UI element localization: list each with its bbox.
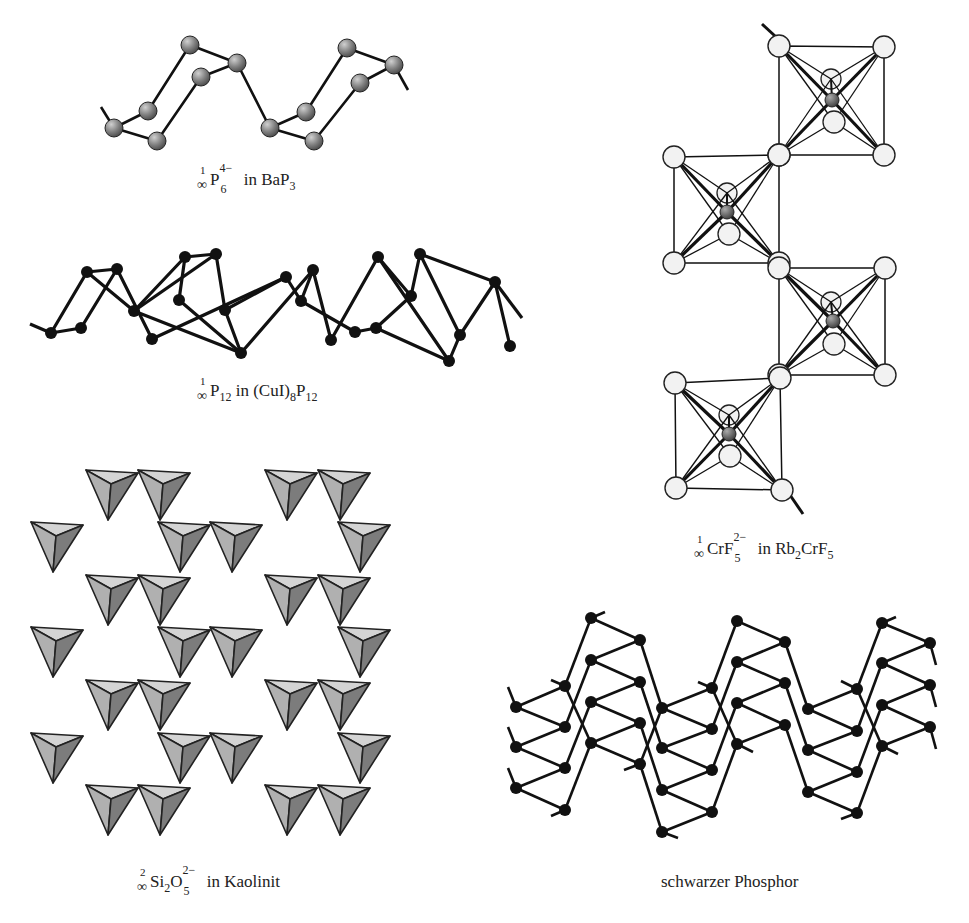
phosphorus-atom bbox=[139, 102, 157, 120]
phosphorus-atom bbox=[338, 39, 356, 57]
phosphorus-atom bbox=[228, 54, 246, 72]
dimensionality-label: 1∞ bbox=[197, 171, 210, 189]
phosphorus-atom bbox=[210, 248, 222, 260]
phosphorus-atom bbox=[656, 702, 668, 714]
phosphorus-atom bbox=[779, 677, 791, 689]
phosphorus-atom bbox=[414, 248, 426, 260]
phosphorus-atom bbox=[219, 304, 231, 316]
phosphorus-atom bbox=[585, 654, 597, 666]
fluorine-atom bbox=[768, 35, 790, 57]
formula-species: CrF bbox=[707, 539, 733, 558]
phosphorus-atom bbox=[634, 676, 646, 688]
phosphorus-atom bbox=[876, 699, 888, 711]
p12-chain-structure bbox=[30, 248, 522, 367]
phosphorus-atom bbox=[148, 132, 166, 150]
phosphorus-atom bbox=[851, 766, 863, 778]
phosphorus-atom bbox=[634, 758, 646, 770]
formula-subscript: 5 bbox=[828, 548, 834, 562]
crf5-octahedra-chain bbox=[663, 24, 896, 514]
caption-crf5-rb2crf5: 1∞CrF2−5 in Rb2CrF5 bbox=[694, 540, 834, 558]
formula-subscript: 12 bbox=[305, 390, 317, 404]
phosphorus-atom bbox=[851, 725, 863, 737]
charge-index: 2−5 bbox=[733, 540, 753, 558]
phosphorus-atom bbox=[146, 333, 158, 345]
phosphorus-atom bbox=[585, 737, 597, 749]
phosphorus-atom bbox=[731, 738, 743, 750]
caption-black-phosphorus: schwarzer Phosphor bbox=[661, 873, 798, 890]
fluorine-atom bbox=[768, 257, 790, 279]
phosphorus-atom bbox=[656, 826, 668, 838]
phosphorus-atom bbox=[876, 657, 888, 669]
phosphorus-atom bbox=[802, 744, 814, 756]
formula-species: Si bbox=[150, 872, 164, 891]
phosphorus-atom bbox=[510, 741, 522, 753]
phosphorus-atom bbox=[634, 717, 646, 729]
caption-text: in Rb bbox=[753, 539, 795, 558]
phosphorus-atom bbox=[656, 742, 668, 754]
phosphorus-atom bbox=[179, 251, 191, 263]
fluorine-atom bbox=[769, 367, 791, 389]
chromium-atom bbox=[722, 427, 736, 441]
phosphorus-atom bbox=[656, 784, 668, 796]
si2o5-tetrahedra-layer bbox=[31, 470, 390, 835]
fluorine-atom bbox=[874, 364, 896, 386]
phosphorus-atom bbox=[510, 782, 522, 794]
caption-text: in BaP bbox=[239, 170, 289, 189]
fluorine-atom bbox=[874, 257, 896, 279]
phosphorus-atom bbox=[128, 305, 140, 317]
phosphorus-atom bbox=[280, 271, 292, 283]
phosphorus-atom bbox=[181, 36, 199, 54]
fluorine-atom bbox=[873, 36, 895, 58]
phosphorus-atom bbox=[45, 327, 57, 339]
phosphorus-atom bbox=[351, 74, 369, 92]
caption-p6-bap3: 1∞P4−6 in BaP3 bbox=[197, 171, 296, 189]
fluorine-atom bbox=[663, 252, 685, 274]
phosphorus-atom bbox=[173, 294, 185, 306]
phosphorus-atom bbox=[706, 764, 718, 776]
phosphorus-atom bbox=[192, 68, 210, 86]
dimensionality-label: 1∞ bbox=[694, 540, 707, 558]
phosphorus-atom bbox=[924, 721, 936, 733]
phosphorus-atom bbox=[559, 680, 571, 692]
phosphorus-atom bbox=[559, 804, 571, 816]
caption-si2o5-kaolinit: 2∞Si2O2−5 in Kaolinit bbox=[137, 873, 280, 891]
phosphorus-atom bbox=[876, 740, 888, 752]
phosphorus-atom bbox=[585, 612, 597, 624]
phosphorus-atom bbox=[405, 290, 417, 302]
chromium-atom bbox=[720, 205, 734, 219]
phosphorus-atom bbox=[706, 723, 718, 735]
phosphorus-atom bbox=[235, 347, 247, 359]
phosphorus-atom bbox=[559, 762, 571, 774]
fluorine-atom bbox=[719, 445, 741, 467]
phosphorus-atom bbox=[585, 696, 597, 708]
phosphorus-atom bbox=[325, 334, 337, 346]
phosphorus-atom bbox=[706, 682, 718, 694]
phosphorus-atom bbox=[851, 807, 863, 819]
phosphorus-atom bbox=[802, 786, 814, 798]
formula-species: P bbox=[210, 170, 219, 189]
fluorine-atom bbox=[768, 144, 790, 166]
phosphorus-atom bbox=[385, 56, 403, 74]
p6-chain-structure bbox=[101, 36, 408, 150]
phosphorus-atom bbox=[443, 355, 455, 367]
dimensionality-label: 1∞ bbox=[197, 382, 210, 400]
formula-subscript: 12 bbox=[219, 390, 231, 404]
phosphorus-atom bbox=[372, 251, 384, 263]
phosphorus-atom bbox=[731, 656, 743, 668]
black-phosphorus-layer bbox=[508, 612, 936, 838]
phosphorus-atom bbox=[297, 103, 315, 121]
phosphorus-atom bbox=[924, 637, 936, 649]
dimensionality-label: 2∞ bbox=[137, 873, 150, 891]
phosphorus-atom bbox=[779, 636, 791, 648]
caption-p12-cui: 1∞P12 in (CuI)8P12 bbox=[197, 382, 317, 400]
phosphorus-atom bbox=[489, 276, 501, 288]
phosphorus-atom bbox=[75, 322, 87, 334]
phosphorus-atom bbox=[731, 697, 743, 709]
formula-subscript: 3 bbox=[290, 179, 296, 193]
phosphorus-atom bbox=[370, 322, 382, 334]
phosphorus-atom bbox=[924, 679, 936, 691]
chromium-atom bbox=[825, 93, 839, 107]
caption-text: in (CuI) bbox=[231, 381, 290, 400]
fluorine-atom bbox=[823, 333, 845, 355]
caption-text: CrF bbox=[801, 539, 827, 558]
